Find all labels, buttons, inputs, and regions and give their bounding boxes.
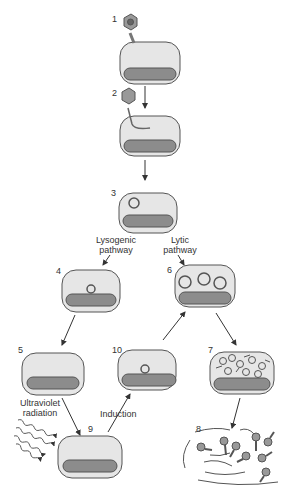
lytic-line2: pathway — [155, 245, 205, 255]
step-number-7: 7 — [208, 345, 213, 355]
step-number-6: 6 — [167, 265, 172, 275]
phage-head-icon — [122, 88, 135, 104]
step-number-3: 3 — [111, 188, 116, 198]
step-number-5: 5 — [18, 345, 23, 355]
lysogenic-pathway-label: Lysogenic pathway — [86, 235, 146, 255]
step-number-10: 10 — [112, 345, 122, 355]
step-number-9: 9 — [88, 424, 93, 434]
cell-step-6 — [175, 265, 235, 307]
uv-radiation-label: Ultraviolet radiation — [10, 398, 70, 418]
lysogenic-line1: Lysogenic — [86, 235, 146, 245]
step-number-8: 8 — [196, 424, 201, 434]
lytic-line1: Lytic — [155, 235, 205, 245]
induction-label: Induction — [100, 409, 137, 419]
cell-step-5 — [22, 353, 84, 395]
uv-line2: radiation — [10, 408, 70, 418]
lysogenic-line2: pathway — [86, 245, 146, 255]
cell-step-10 — [118, 350, 176, 390]
phage-tail — [130, 33, 134, 43]
cell-step-9 — [58, 436, 122, 478]
step-number-1: 1 — [112, 14, 117, 24]
step-number-4: 4 — [56, 266, 61, 276]
step-number-2: 2 — [112, 88, 117, 98]
cell-step-2 — [120, 88, 180, 156]
cell-step-3 — [119, 193, 177, 233]
cell-step-1 — [120, 14, 180, 84]
released-phages — [197, 432, 274, 482]
cell-step-4 — [62, 270, 120, 312]
cell-step-7 — [210, 352, 274, 394]
uv-radiation-waves — [13, 419, 56, 463]
uv-line1: Ultraviolet — [10, 398, 70, 408]
lytic-pathway-label: Lytic pathway — [155, 235, 205, 255]
